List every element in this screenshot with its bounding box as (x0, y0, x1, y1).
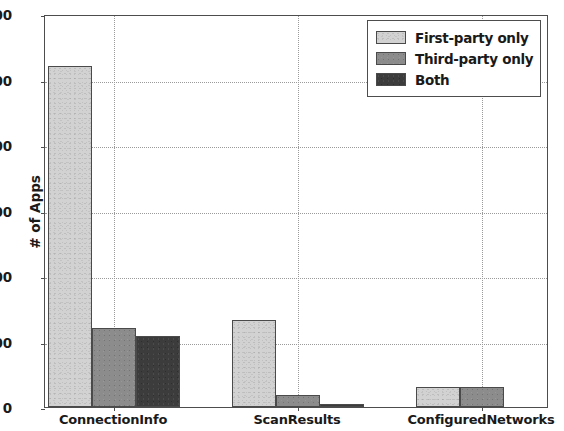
x-axis-tick-label: ConnectionInfo (59, 412, 167, 427)
x-axis-tick-mark (482, 407, 483, 411)
y-axis-tick-mark (41, 278, 45, 279)
x-axis-tick-mark (114, 407, 115, 411)
x-axis-tick-label: ConfiguredNetworks (408, 412, 555, 427)
bar (460, 387, 504, 407)
bar (232, 320, 276, 407)
y-axis-tick-mark (41, 344, 45, 345)
x-axis-tick-label: ScanResults (253, 412, 340, 427)
y-axis-tick-mark (41, 16, 45, 17)
chart-legend: First-party onlyThird-party onlyBoth (367, 20, 541, 97)
gridline-horizontal (45, 147, 547, 148)
gridline-horizontal (45, 213, 547, 214)
legend-label: Both (415, 72, 449, 88)
bar (136, 336, 180, 407)
y-axis-tick-label: 100 (0, 335, 12, 351)
legend-color-swatch (376, 31, 406, 44)
x-axis-tick-mark (298, 407, 299, 411)
y-axis-tick-mark (41, 409, 45, 410)
chart-figure: # of Apps 0100200300400500600 Connection… (0, 0, 564, 431)
bar (48, 66, 92, 407)
y-axis-tick-mark (41, 82, 45, 83)
legend-item: First-party only (376, 27, 532, 48)
legend-item: Third-party only (376, 48, 532, 69)
y-axis-tick-label: 300 (0, 204, 12, 220)
y-axis-tick-label: 400 (0, 138, 12, 154)
legend-label: Third-party only (415, 51, 533, 67)
y-axis-tick-label: 500 (0, 73, 12, 89)
y-axis-tick-label: 600 (0, 7, 12, 23)
y-axis-title: # of Apps (27, 175, 43, 249)
bar (276, 395, 320, 407)
legend-color-swatch (376, 73, 406, 86)
bar (320, 404, 364, 407)
bar (416, 387, 460, 407)
gridline-vertical (298, 16, 299, 407)
bar (92, 328, 136, 407)
legend-label: First-party only (415, 30, 529, 46)
y-axis-tick-mark (41, 213, 45, 214)
y-axis-tick-label: 0 (0, 400, 12, 416)
gridline-horizontal (45, 278, 547, 279)
y-axis-tick-mark (41, 147, 45, 148)
legend-item: Both (376, 69, 532, 90)
y-axis-tick-label: 200 (0, 269, 12, 285)
legend-color-swatch (376, 52, 406, 65)
